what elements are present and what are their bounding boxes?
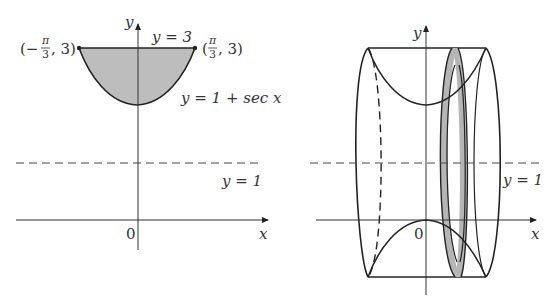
left-label-y1: y = 1 bbox=[221, 172, 262, 190]
right-x-label: x bbox=[531, 225, 540, 243]
label-y3: y = 3 bbox=[151, 28, 192, 46]
svg-text:, 3): , 3) bbox=[218, 40, 243, 58]
svg-text:3: 3 bbox=[42, 48, 49, 61]
svg-text:π: π bbox=[208, 34, 217, 47]
svg-text:(−: (− bbox=[20, 40, 38, 58]
right-figure: y x 0 y = 1 bbox=[310, 24, 544, 295]
shaded-region bbox=[79, 48, 195, 105]
svg-text:(: ( bbox=[202, 40, 208, 58]
svg-text:π: π bbox=[41, 34, 50, 47]
left-x-label: x bbox=[259, 225, 268, 243]
left-point-label: (− π 3 , 3) bbox=[20, 34, 76, 61]
figure-canvas: y x 0 y = 3 y = 1 + sec x y = 1 (− π 3 ,… bbox=[0, 0, 554, 299]
left-y-label: y bbox=[124, 13, 134, 31]
svg-text:3: 3 bbox=[209, 48, 216, 61]
right-origin-label: 0 bbox=[414, 225, 424, 243]
right-point-label: ( π 3 , 3) bbox=[202, 34, 243, 61]
left-endpoint bbox=[77, 46, 81, 50]
lower-sec-curve bbox=[368, 220, 486, 277]
left-figure: y x 0 y = 3 y = 1 + sec x y = 1 (− π 3 ,… bbox=[16, 13, 282, 250]
left-origin-label: 0 bbox=[126, 225, 136, 243]
svg-text:, 3): , 3) bbox=[51, 40, 76, 58]
right-label-y1: y = 1 bbox=[502, 171, 543, 189]
right-y-label: y bbox=[412, 24, 422, 42]
right-endpoint bbox=[193, 46, 197, 50]
label-sec-curve: y = 1 + sec x bbox=[180, 89, 282, 107]
upper-sec-curve bbox=[368, 48, 486, 105]
